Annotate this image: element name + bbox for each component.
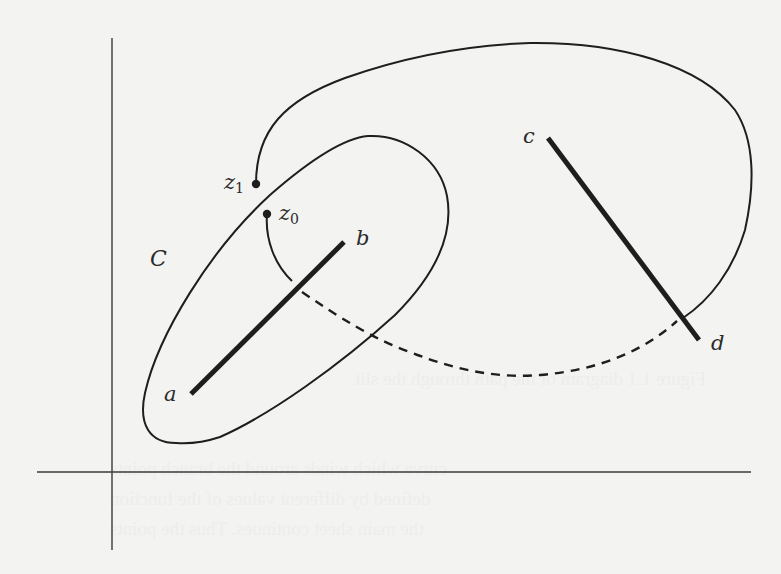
label-c: c	[523, 126, 535, 147]
label-z0-sub: 0	[290, 211, 299, 227]
point-z0	[263, 210, 271, 218]
label-z1-main: z	[224, 170, 235, 194]
label-d: d	[711, 333, 724, 354]
label-z0-main: z	[279, 201, 290, 225]
label-a: a	[164, 384, 177, 405]
label-contour-C: C	[150, 248, 167, 270]
label-z0: z0	[279, 203, 299, 226]
label-z1: z1	[224, 172, 244, 195]
slit-c-d	[548, 138, 699, 340]
label-z1-sub: 1	[235, 180, 244, 196]
label-b: b	[356, 228, 369, 249]
outer-path	[256, 43, 752, 318]
point-z1	[252, 180, 260, 188]
dashed-path	[302, 292, 677, 376]
diagram-canvas	[0, 0, 781, 574]
slit-a-b	[191, 242, 344, 394]
